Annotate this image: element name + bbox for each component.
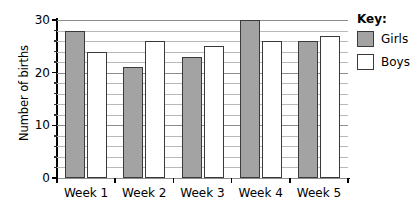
x-axis-label-week-3: Week 3 bbox=[173, 186, 231, 200]
y-tick-mark bbox=[54, 93, 58, 95]
y-tick-label: 30 bbox=[35, 13, 50, 27]
y-tick-mark bbox=[52, 125, 57, 127]
bar-girls-week-2 bbox=[123, 67, 143, 178]
y-tick-mark bbox=[54, 82, 58, 84]
x-axis-tick bbox=[347, 178, 349, 183]
y-tick-mark bbox=[54, 61, 58, 63]
bar-girls-week-5 bbox=[298, 41, 318, 178]
bar-boys-week-1 bbox=[87, 52, 107, 178]
plot-area: 0102030 bbox=[57, 20, 348, 178]
y-tick-mark bbox=[54, 114, 58, 116]
legend: Key: Girls Boys bbox=[357, 12, 419, 77]
bar-girls-week-4 bbox=[240, 20, 260, 178]
gridline bbox=[57, 31, 348, 32]
y-tick-mark bbox=[54, 30, 58, 32]
bar-girls-week-3 bbox=[182, 57, 202, 178]
gridline bbox=[57, 178, 348, 179]
x-axis-tick bbox=[56, 178, 58, 183]
y-tick-mark bbox=[54, 40, 58, 42]
x-axis-label-week-2: Week 2 bbox=[115, 186, 173, 200]
x-axis-label-week-1: Week 1 bbox=[57, 186, 115, 200]
bar-boys-week-5 bbox=[320, 36, 340, 178]
y-tick-mark bbox=[54, 167, 58, 169]
legend-swatch-boys-icon bbox=[357, 54, 374, 70]
y-tick-mark bbox=[52, 72, 57, 74]
x-axis-tick bbox=[289, 178, 291, 183]
y-tick-label: 20 bbox=[35, 66, 50, 80]
y-tick-mark bbox=[54, 104, 58, 106]
x-axis-label-week-4: Week 4 bbox=[232, 186, 290, 200]
y-tick-mark bbox=[52, 19, 57, 21]
y-tick-label: 0 bbox=[42, 171, 50, 185]
legend-item-boys: Boys bbox=[357, 54, 419, 70]
bar-girls-week-1 bbox=[65, 31, 85, 178]
y-tick-mark bbox=[54, 51, 58, 53]
gridline bbox=[57, 20, 348, 21]
legend-label-boys: Boys bbox=[381, 55, 410, 69]
y-tick-mark bbox=[54, 156, 58, 158]
bar-chart-figure: Number of births 0102030 Week 1Week 2Wee… bbox=[0, 0, 420, 216]
bar-boys-week-4 bbox=[262, 41, 282, 178]
y-axis-title: Number of births bbox=[17, 13, 31, 173]
x-axis-tick bbox=[231, 178, 233, 183]
legend-title: Key: bbox=[357, 12, 419, 26]
y-tick-mark bbox=[54, 135, 58, 137]
bar-boys-week-3 bbox=[204, 46, 224, 178]
x-axis-label-week-5: Week 5 bbox=[290, 186, 348, 200]
x-axis-tick bbox=[173, 178, 175, 183]
y-tick-mark bbox=[54, 146, 58, 148]
legend-item-girls: Girls bbox=[357, 31, 419, 47]
bar-boys-week-2 bbox=[145, 41, 165, 178]
legend-swatch-girls-icon bbox=[357, 31, 374, 47]
legend-label-girls: Girls bbox=[381, 32, 408, 46]
y-tick-label: 10 bbox=[35, 118, 50, 132]
x-axis-tick bbox=[114, 178, 116, 183]
